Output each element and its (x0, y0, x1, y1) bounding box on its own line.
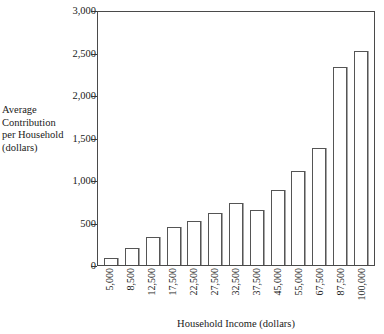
bar (146, 237, 160, 265)
bar (104, 258, 118, 265)
x-tick-label: 37,500 (252, 268, 262, 296)
x-tick-wrap: 12,500 (145, 268, 159, 320)
plot-area (97, 11, 375, 266)
x-tick-wrap: 45,000 (271, 268, 285, 320)
x-tick-wrap: 5,000 (103, 268, 117, 320)
x-tick-wrap: 32,500 (229, 268, 243, 320)
bar (333, 67, 347, 265)
x-tick-label: 12,500 (147, 268, 157, 296)
bar (125, 248, 139, 265)
x-tick-wrap: 87,500 (334, 268, 348, 320)
x-tick-label: 22,500 (189, 268, 199, 296)
x-tick-label: 32,500 (231, 268, 241, 296)
y-tick-mark (91, 266, 97, 267)
bar (250, 210, 264, 265)
bar (167, 227, 181, 265)
y-tick-label-3000: 3,000 (52, 6, 96, 17)
bar (312, 148, 326, 265)
y-tick-label-2500: 2,500 (52, 49, 96, 60)
bar (354, 51, 368, 265)
x-tick-label: 45,000 (273, 268, 283, 296)
x-tick-wrap: 22,500 (187, 268, 201, 320)
x-tick-label: 27,500 (210, 268, 220, 296)
bar (291, 171, 305, 265)
bars-container (98, 12, 374, 265)
x-tick-wrap: 55,000 (292, 268, 306, 320)
y-tick-label-0: 0 (52, 261, 96, 272)
x-tick-label: 5,000 (105, 268, 115, 291)
x-tick-label: 55,000 (294, 268, 304, 296)
x-tick-wrap: 100,000 (355, 268, 369, 320)
bar (271, 190, 285, 265)
bar (208, 213, 222, 265)
bar-chart: Average Contribution per Household (doll… (0, 0, 384, 334)
x-tick-wrap: 17,500 (166, 268, 180, 320)
x-tick-label: 87,500 (336, 268, 346, 296)
bar (229, 203, 243, 265)
y-axis-tick-labels: 3,000 2,500 2,000 1,500 1,000 500 0 (52, 0, 96, 334)
x-tick-label: 17,500 (168, 268, 178, 296)
x-tick-wrap: 27,500 (208, 268, 222, 320)
x-tick-label: 8,500 (126, 268, 136, 291)
x-tick-wrap: 8,500 (124, 268, 138, 320)
x-axis-tick-labels: 5,0008,50012,50017,50022,50027,50032,500… (97, 268, 375, 320)
x-tick-label: 67,500 (315, 268, 325, 296)
y-tick-label-1000: 1,000 (52, 176, 96, 187)
x-tick-wrap: 37,500 (250, 268, 264, 320)
x-tick-label: 100,000 (357, 268, 367, 301)
bar (187, 221, 201, 265)
x-tick-wrap: 67,500 (313, 268, 327, 320)
y-tick-label-500: 500 (52, 219, 96, 230)
y-tick-label-1500: 1,500 (52, 134, 96, 145)
y-tick-label-2000: 2,000 (52, 91, 96, 102)
x-axis-title: Household Income (dollars) (97, 318, 375, 330)
